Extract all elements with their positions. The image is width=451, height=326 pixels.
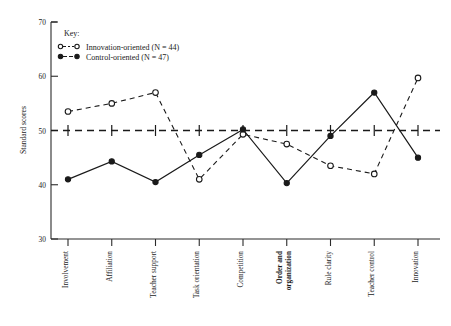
data-point: [153, 179, 158, 184]
data-point: [415, 75, 421, 81]
data-point: [109, 159, 114, 164]
data-point: [328, 133, 333, 138]
data-point: [153, 90, 159, 96]
data-point: [415, 155, 420, 160]
data-point: [65, 109, 71, 115]
legend-open-circle-icon-left: [58, 44, 62, 48]
chart-figure: 70 60 50 40 30 Standard scores: [0, 0, 451, 326]
x-axis-label-4: Competition: [236, 251, 245, 288]
x-axis-label-0: Involvement: [61, 251, 70, 288]
data-point: [371, 171, 377, 177]
legend-open-circle-icon-right: [75, 44, 79, 48]
x-axis-label-8: Innovation: [411, 251, 420, 283]
legend-label-control-oriented: Control-oriented (N = 47): [86, 53, 169, 62]
legend-entry-innovation-oriented: Innovation-oriented (N = 44): [58, 43, 179, 52]
x-axis-label-5: Order and: [275, 251, 284, 284]
data-point: [240, 127, 245, 132]
y-tick-label-70: 70: [39, 18, 47, 27]
data-point: [196, 177, 202, 183]
series-control-oriented: [65, 90, 420, 186]
legend-filled-circle-icon-right: [75, 54, 79, 58]
legend-filled-circle-icon-left: [58, 54, 62, 58]
data-point: [197, 152, 202, 157]
x-axis-category-labels: InvolvementAffiliationTeacher supportTas…: [61, 251, 420, 298]
series-line: [68, 93, 418, 184]
data-point: [372, 90, 377, 95]
legend-label-innovation-oriented: Innovation-oriented (N = 44): [86, 43, 179, 52]
y-tick-label-60: 60: [39, 72, 47, 81]
y-tick-label-40: 40: [39, 181, 47, 190]
y-tick-label-30: 30: [39, 235, 47, 244]
x-axis-ticks: [68, 239, 418, 246]
y-tick-label-50: 50: [39, 127, 47, 136]
x-axis-label-3: Task orientation: [192, 251, 201, 298]
x-axis-label-2: Teacher support: [149, 251, 158, 298]
legend-entry-control-oriented: Control-oriented (N = 47): [58, 53, 169, 62]
data-point: [65, 177, 70, 182]
legend-key-title: Key:: [64, 29, 80, 38]
chart-legend: Key: Innovation-oriented (N = 44) Contro…: [58, 29, 179, 62]
x-axis-label-6: Rule clarity: [324, 251, 333, 286]
x-axis-label-5: organization: [284, 251, 293, 290]
data-point: [328, 163, 334, 169]
line-chart-svg: 70 60 50 40 30 Standard scores: [0, 0, 451, 326]
y-axis-title: Standard scores: [19, 106, 28, 154]
data-point: [109, 101, 115, 107]
x-axis-label-7: Teacher control: [367, 251, 376, 296]
x-axis-label-1: Affiliation: [105, 251, 114, 282]
data-point: [284, 181, 289, 186]
data-point: [284, 141, 290, 147]
